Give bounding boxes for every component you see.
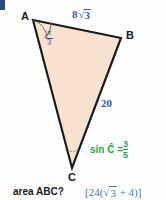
- answer-radical: √3: [103, 185, 117, 198]
- triangle-figure: [0, 0, 166, 186]
- side-ab-measure: 8√3: [72, 8, 91, 20]
- answer-radicand: 3: [109, 186, 117, 199]
- page-canvas: A B C π 3 8√3 20 sin Ĉ =35 area ABC? [2…: [0, 0, 166, 200]
- angle-a-measure: π 3: [44, 29, 54, 47]
- side-bc-measure: 20: [101, 98, 112, 109]
- given-sin-c-prefix: sin Ĉ =: [90, 144, 123, 155]
- answer-text: [24(√3 + 4)]: [85, 185, 141, 198]
- angle-a-numerator: π: [44, 29, 54, 37]
- answer-open-bracket: [24(: [85, 186, 103, 198]
- given-sin-c-fraction: 35: [123, 140, 128, 160]
- given-sin-c: sin Ĉ =35: [90, 140, 128, 160]
- vertex-label-a: A: [21, 11, 29, 22]
- vertex-label-c: C: [68, 172, 76, 183]
- side-ab-radical: √3: [78, 8, 92, 20]
- question-row: area ABC? [24(√3 + 4)]: [0, 184, 166, 200]
- angle-a-denominator: 3: [44, 39, 54, 47]
- given-sin-c-denominator: 5: [123, 151, 128, 160]
- given-sin-c-numerator: 3: [123, 140, 128, 149]
- question-text: area ABC?: [13, 186, 64, 197]
- side-ab-radicand: 3: [84, 9, 92, 21]
- answer-close: + 4)]: [117, 186, 142, 198]
- vertex-label-b: B: [126, 30, 134, 41]
